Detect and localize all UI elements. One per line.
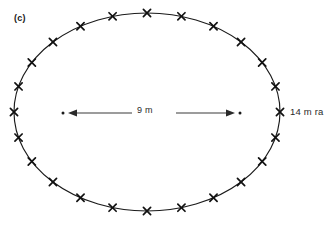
cross-marker bbox=[210, 23, 217, 30]
cross-marker bbox=[272, 134, 279, 141]
cross-marker bbox=[77, 23, 84, 30]
diameter-dimension-label: 9 m bbox=[134, 105, 156, 115]
cross-marker bbox=[49, 178, 56, 185]
cross-marker bbox=[28, 158, 35, 165]
panel-label: (c) bbox=[14, 13, 26, 23]
cross-marker bbox=[15, 134, 22, 141]
cross-marker bbox=[237, 38, 244, 45]
cross-marker bbox=[28, 59, 35, 66]
dimension-endpoint-dot-right bbox=[239, 112, 242, 115]
cross-marker bbox=[15, 83, 22, 90]
cross-marker bbox=[272, 83, 279, 90]
radius-annotation-label: 14 m ra bbox=[290, 106, 324, 117]
dimension-endpoint-dot-left bbox=[62, 112, 65, 115]
arrowhead-left-icon bbox=[68, 110, 77, 117]
cross-marker bbox=[49, 38, 56, 45]
cross-marker bbox=[210, 194, 217, 201]
figure-container: (c) 9 m 14 m ra bbox=[0, 0, 331, 231]
cross-marker bbox=[77, 194, 84, 201]
cross-marker bbox=[259, 59, 266, 66]
arrowhead-right-icon bbox=[226, 110, 235, 117]
ellipse-diagram-svg bbox=[0, 0, 331, 231]
cross-marker bbox=[237, 178, 244, 185]
cross-marker bbox=[259, 158, 266, 165]
